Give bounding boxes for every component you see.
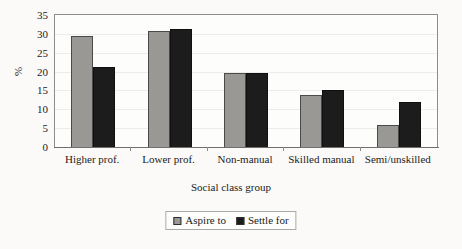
x-axis-tick-mark (130, 147, 131, 151)
y-axis-tick-label: 10 (22, 104, 48, 115)
bar-aspire-to (148, 31, 170, 147)
x-axis-tick-label: Non-manual (218, 152, 273, 166)
bar-settle-for (322, 90, 344, 147)
chart-legend: Aspire toSettle for (165, 211, 296, 230)
x-axis-tick-labels: Higher prof.Lower prof.Non-manualSkilled… (54, 152, 438, 168)
bar-group (55, 15, 131, 147)
x-axis-tick-label: Higher prof. (65, 152, 119, 166)
bar-settle-for (399, 102, 421, 147)
y-axis-tick-label: 5 (22, 123, 48, 134)
bar-aspire-to (377, 125, 399, 147)
bar-settle-for (93, 67, 115, 147)
x-axis-tick-mark (207, 147, 208, 151)
bar-groups (55, 15, 437, 147)
legend-item: Settle for (236, 214, 289, 227)
x-axis-tick-label: Semi/unskilled (365, 152, 431, 166)
y-axis-tick-label: 25 (22, 47, 48, 58)
legend-label: Aspire to (185, 214, 226, 227)
x-axis-line (54, 147, 439, 148)
y-axis-tick-label: 20 (22, 66, 48, 77)
y-axis-tick-label: 35 (22, 10, 48, 21)
y-axis-tick-label: 0 (22, 142, 48, 153)
legend-swatch-icon (236, 217, 244, 225)
y-axis-tick-label: 15 (22, 85, 48, 96)
x-axis-tick-mark (283, 147, 284, 151)
y-axis-tick-label: 30 (22, 28, 48, 39)
bar-aspire-to (224, 73, 246, 147)
x-axis-tick-mark (360, 147, 361, 151)
legend-label: Settle for (248, 214, 289, 227)
bar-settle-for (246, 73, 268, 147)
x-axis-tick-label: Skilled manual (288, 152, 354, 166)
bar-group (208, 15, 284, 147)
legend-swatch-icon (173, 217, 181, 225)
x-axis-tick-label: Lower prof. (142, 152, 195, 166)
bar-chart: % 05101520253035 Higher prof.Lower prof.… (0, 0, 462, 249)
bar-settle-for (170, 29, 192, 147)
y-axis-tick-labels: 05101520253035 (22, 14, 48, 148)
bar-group (361, 15, 437, 147)
x-axis-title: Social class group (0, 181, 462, 193)
bar-aspire-to (300, 95, 322, 147)
bar-group (284, 15, 360, 147)
bar-aspire-to (71, 36, 93, 147)
legend-item: Aspire to (173, 214, 226, 227)
bar-group (131, 15, 207, 147)
